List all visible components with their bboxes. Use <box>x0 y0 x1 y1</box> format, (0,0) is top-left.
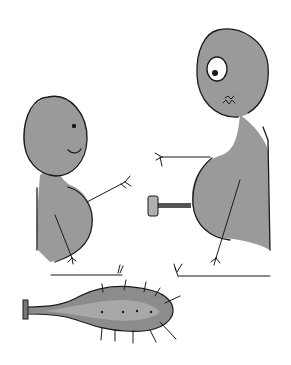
eye-icon <box>207 57 227 81</box>
eye-icon <box>72 124 76 128</box>
ground-lines <box>51 264 270 276</box>
spiked-club <box>23 280 180 343</box>
illustration <box>0 0 291 365</box>
mallet <box>148 196 191 216</box>
tall-figure <box>155 29 270 265</box>
pupil-icon <box>212 70 218 76</box>
small-figure <box>23 96 131 264</box>
